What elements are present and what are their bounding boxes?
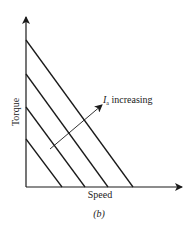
x-axis-label: Speed [88, 189, 112, 200]
curve-ia-3 [26, 74, 108, 187]
figure-caption: (b) [93, 208, 105, 220]
curve-ia-1 [26, 139, 62, 187]
curve-ia-2 [26, 107, 85, 187]
annotation-label: Ia increasing [102, 94, 153, 106]
y-axis-label: Torque [10, 97, 21, 126]
torque-speed-diagram: Ia increasing Speed Torque (b) [0, 0, 188, 229]
curve-ia-4 [26, 40, 133, 187]
